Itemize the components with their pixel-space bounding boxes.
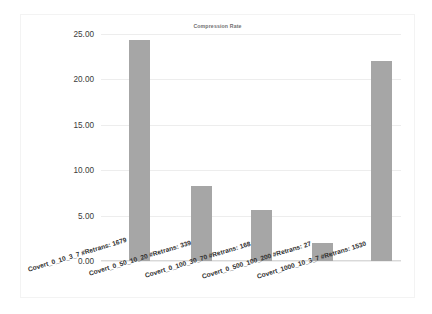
bar	[191, 186, 212, 261]
y-tick-label: 10.00	[74, 166, 95, 175]
bar	[129, 40, 150, 261]
chart-title: Compression Rate	[21, 23, 414, 29]
gridline	[101, 34, 401, 35]
y-tick-label: 5.00	[78, 211, 94, 220]
y-tick-label: 20.00	[74, 75, 95, 84]
y-tick-label: 25.00	[74, 29, 95, 38]
y-tick-label: 15.00	[74, 120, 95, 129]
chart-container: Compression Rate 0.005.0010.0015.0020.00…	[20, 14, 415, 298]
bar	[371, 61, 392, 261]
gridline	[101, 261, 401, 262]
bar	[312, 243, 333, 261]
bar	[251, 210, 272, 261]
y-tick-label: 0.00	[78, 256, 94, 265]
plot-area: 0.005.0010.0015.0020.0025.00	[101, 34, 401, 261]
